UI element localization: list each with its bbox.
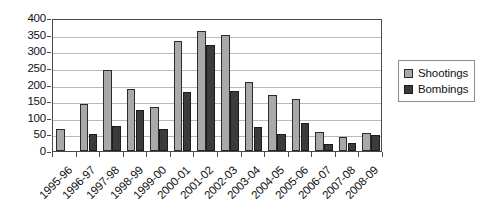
y-tick-mark [47,152,51,153]
bar-group [124,20,148,151]
x-tick-mark [382,152,383,157]
x-tick-mark [99,152,100,157]
bar-shootings-2006-07 [315,132,324,151]
y-tick-mark [47,135,51,136]
x-tick-label: 2007-08 [207,164,357,215]
x-tick-label: 2008-09 [231,164,381,215]
x-axis-ticks [52,152,382,157]
bar-shootings-1995-96 [56,129,65,151]
y-axis: 400350300250200150100500 [0,19,46,152]
bar-shootings-2003-04 [245,82,254,151]
x-tick-label: 1997-98 [0,164,121,215]
y-tick-label: 200 [0,80,46,92]
x-tick-mark [52,152,53,157]
bar-group [265,20,289,151]
x-tick-mark [170,152,171,157]
bar-shootings-2008-09 [362,133,371,151]
x-tick-label: 2003-04 [113,164,263,215]
bar-shootings-2004-05 [268,95,277,151]
y-tick-mark [47,86,51,87]
y-tick-label: 400 [0,13,46,25]
bar-shootings-2001-02 [197,31,206,151]
bar-shootings-2005-06 [292,99,301,151]
legend-label-shootings: Shootings [418,67,468,79]
y-tick-mark [47,19,51,20]
y-tick-label: 250 [0,63,46,75]
y-tick-label: 50 [0,129,46,141]
y-tick-mark [47,36,51,37]
bar-group [53,20,77,151]
x-tick-label: 2002-03 [89,164,239,215]
x-tick-label: 1999-00 [18,164,168,215]
bar-bombings-2004-05 [277,134,286,151]
bar-shootings-1999-00 [150,107,159,151]
x-tick-mark [123,152,124,157]
bar-chart: 400350300250200150100500 1995-961996-971… [0,0,492,215]
x-tick-mark [76,152,77,157]
legend-item-shootings: Shootings [404,65,468,81]
bar-shootings-1997-98 [103,70,112,151]
x-tick-label: 2000-01 [42,164,192,215]
y-tick-mark [47,69,51,70]
x-tick-label: 2001-02 [66,164,216,215]
bar-group [218,20,242,151]
bar-bombings-1996-97 [89,134,98,151]
bar-bombings-2001-02 [206,45,215,151]
x-tick-mark [288,152,289,157]
chart-legend: Shootings Bombings [398,60,475,102]
x-tick-mark [264,152,265,157]
bar-shootings-1998-99 [127,89,136,151]
x-tick-label: 1998-99 [0,164,145,215]
y-tick-mark [47,52,51,53]
bar-bombings-2000-01 [183,92,192,151]
bar-group [171,20,195,151]
bar-group [77,20,101,151]
legend-label-bombings: Bombings [418,83,468,95]
bar-bombings-1999-00 [159,129,168,151]
bar-bombings-2007-08 [348,143,357,151]
bar-group [242,20,266,151]
bars-layer [53,20,381,151]
x-tick-mark [358,152,359,157]
y-tick-label: 0 [0,146,46,158]
x-tick-mark [241,152,242,157]
x-tick-label: 1996-97 [0,164,98,215]
y-tick-label: 150 [0,96,46,108]
x-tick-label: 2006-07 [183,164,333,215]
bar-shootings-2002-03 [221,35,230,151]
x-tick-label: 2005-06 [160,164,310,215]
bar-group [194,20,218,151]
x-tick-mark [217,152,218,157]
x-tick-mark [311,152,312,157]
bar-group [312,20,336,151]
plot-area [52,19,382,152]
bar-bombings-2006-07 [324,144,333,151]
bar-group [289,20,313,151]
bar-bombings-2002-03 [230,91,239,151]
bar-shootings-2007-08 [339,137,348,151]
legend-swatch-bombings-icon [404,85,413,94]
legend-swatch-shootings-icon [404,69,413,78]
y-tick-label: 100 [0,113,46,125]
x-tick-mark [193,152,194,157]
bar-group [100,20,124,151]
y-tick-mark [47,102,51,103]
bar-group [359,20,383,151]
bar-group [147,20,171,151]
bar-shootings-1996-97 [80,104,89,151]
bar-bombings-2008-09 [371,135,380,151]
bar-bombings-2003-04 [254,127,263,151]
legend-item-bombings: Bombings [404,81,468,97]
bar-shootings-2000-01 [174,41,183,151]
x-tick-mark [335,152,336,157]
x-tick-mark [146,152,147,157]
x-tick-label: 2004-05 [136,164,286,215]
bar-bombings-1997-98 [112,126,121,151]
bar-bombings-1998-99 [136,110,145,151]
x-tick-label: 1995-96 [0,164,74,215]
y-tick-label: 350 [0,30,46,42]
bar-bombings-2005-06 [301,123,310,151]
y-tick-mark [47,119,51,120]
bar-group [336,20,360,151]
y-tick-label: 300 [0,46,46,58]
